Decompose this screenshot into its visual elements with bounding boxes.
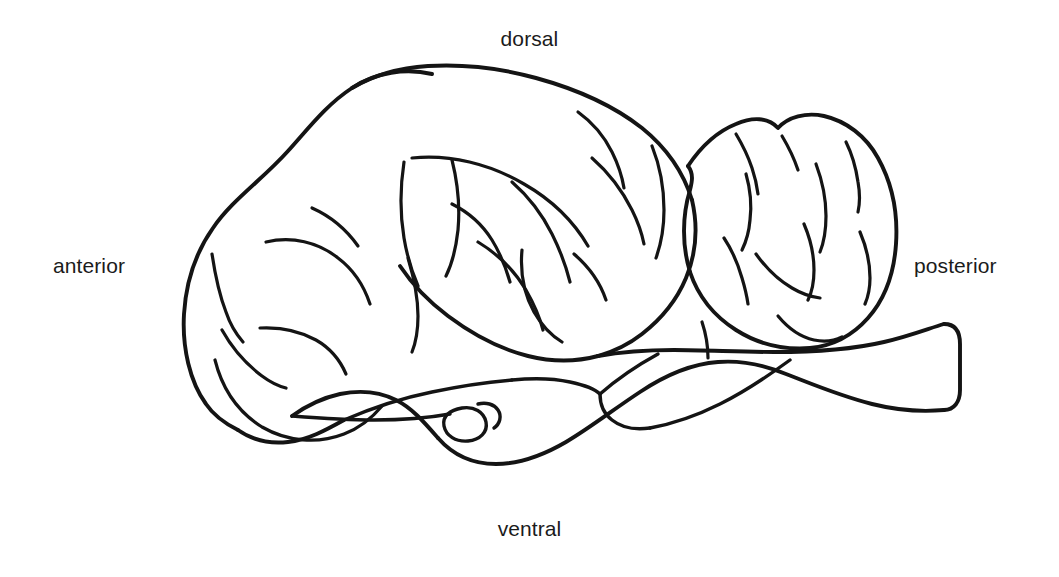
posterior-sulcus-7 (860, 232, 870, 304)
central-sulcus-3 (592, 158, 644, 244)
central-lobe-right-outline (598, 200, 695, 356)
spinal-cord-cut-end (944, 324, 960, 410)
anterior-sulcus-6 (312, 208, 358, 246)
anterior-sulcus-3 (260, 328, 346, 374)
anterior-lobe-group (184, 71, 432, 442)
central-sulcus-2 (578, 112, 624, 188)
ventral-groove-upper (650, 360, 790, 428)
label-posterior: posterior (914, 255, 997, 276)
brain-lateral-view-diagram (0, 0, 1059, 577)
posterior-sulcus-5 (816, 164, 826, 252)
anterior-sulcus-2 (222, 330, 286, 388)
label-dorsal: dorsal (0, 28, 1059, 49)
posterior-sulcus-4 (742, 174, 751, 250)
anterior-sulcus-1 (212, 254, 243, 342)
figure-root: dorsal ventral anterior posterior (0, 0, 1059, 577)
central-sulcus-10 (408, 258, 418, 352)
central-sulcus-4 (652, 146, 664, 258)
brainstem-bottom-edge (438, 362, 944, 464)
optic-tract-upper (344, 380, 512, 420)
posterior-sulcus-10 (778, 316, 842, 341)
pituitary-oval (444, 408, 487, 441)
label-ventral: ventral (0, 518, 1059, 539)
posterior-lobe-outline (688, 115, 896, 349)
central-sulcus-12 (574, 254, 606, 300)
central-lobe-group (352, 66, 695, 361)
central-sulcus-6 (446, 160, 459, 276)
ventral-groove-lower (600, 394, 650, 429)
posterior-sulcus-1 (736, 134, 758, 194)
posterior-lobe-group (684, 115, 896, 358)
ventral-mid-dip (512, 379, 600, 394)
anterior-sulcus-5 (266, 240, 370, 304)
posterior-sulcus-6 (804, 224, 814, 300)
posterior-sulcus-2 (782, 136, 798, 170)
central-sulcus-longitudinal (412, 157, 588, 246)
anterior-sulcus-4 (215, 360, 382, 440)
central-sulcus-9 (478, 242, 543, 330)
label-anterior: anterior (53, 255, 125, 276)
ventral-lower-left-edge (292, 392, 438, 438)
posterior-sulcus-3 (846, 142, 860, 212)
posterior-sulcus-11 (702, 322, 708, 358)
